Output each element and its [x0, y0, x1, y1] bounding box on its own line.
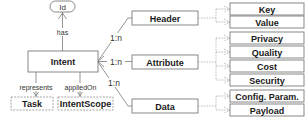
- data-label: Data: [155, 102, 176, 112]
- quality-label: Quality: [252, 48, 283, 58]
- intent-scope-entity: IntentScope: [58, 97, 113, 110]
- security-label: Security: [249, 76, 285, 86]
- task-entity: Task: [11, 97, 53, 110]
- applied-on-label: appliedOn: [65, 84, 97, 92]
- attribute-label: Attribute: [146, 58, 184, 68]
- intent-entity: Intent: [28, 51, 98, 72]
- attribute-cardinality: 1:n: [110, 57, 122, 67]
- config-param-label: Config. Param.: [235, 92, 299, 102]
- intent-scope-label: IntentScope: [60, 99, 112, 109]
- data-cardinality: 1:n: [108, 78, 120, 88]
- config-param-field: Config. Param.: [230, 90, 304, 102]
- applied-on-connector: appliedOn: [63, 72, 98, 97]
- header-label: Header: [150, 14, 181, 24]
- header-branch: [198, 6, 230, 25]
- intent-label: Intent: [51, 57, 76, 67]
- intent-model-diagram: Id has Intent represents appliedOn Task …: [0, 0, 308, 128]
- security-field: Security: [230, 74, 304, 86]
- header-connector: 1:n: [98, 18, 132, 61]
- key-label: Key: [259, 5, 276, 15]
- header-cardinality: 1:n: [110, 33, 122, 43]
- task-label: Task: [22, 99, 43, 109]
- attribute-connector: 1:n: [98, 57, 132, 67]
- payload-label: Payload: [250, 106, 285, 116]
- cost-field: Cost: [230, 60, 304, 72]
- key-field: Key: [230, 3, 304, 15]
- id-attribute: Id: [50, 1, 75, 12]
- id-label: Id: [59, 3, 66, 12]
- has-label: has: [57, 29, 69, 36]
- quality-field: Quality: [230, 46, 304, 58]
- data-entity: Data: [132, 99, 198, 113]
- value-label: Value: [255, 18, 279, 28]
- payload-field: Payload: [230, 104, 304, 116]
- attribute-entity: Attribute: [132, 55, 198, 69]
- privacy-label: Privacy: [251, 34, 283, 44]
- header-entity: Header: [132, 11, 198, 25]
- privacy-field: Privacy: [230, 32, 304, 44]
- cost-label: Cost: [257, 62, 277, 72]
- attribute-branch: [198, 35, 230, 83]
- value-field: Value: [230, 16, 304, 28]
- has-connector: has: [53, 12, 72, 51]
- represents-label: represents: [19, 84, 53, 92]
- data-branch: [198, 93, 230, 113]
- represents-connector: represents: [14, 72, 58, 97]
